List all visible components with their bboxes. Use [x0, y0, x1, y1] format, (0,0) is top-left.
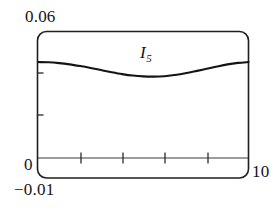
curve-subscript: 5 — [146, 52, 152, 64]
y-axis-max-label: 0.06 — [25, 8, 56, 25]
y-axis-ticks — [38, 73, 44, 115]
y-axis-bottom-label: −0.01 — [14, 181, 54, 198]
x-axis-max-label: 10 — [252, 163, 269, 180]
curve-series-label: I5 — [140, 44, 152, 64]
figure-container: 0.06 0 −0.01 10 I5 — [0, 0, 274, 212]
curve-symbol: I — [140, 43, 146, 62]
y-axis-zero-label: 0 — [24, 156, 33, 173]
